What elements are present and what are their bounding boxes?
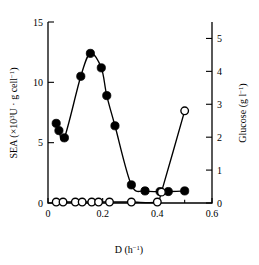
y-right-tick-label: 5: [217, 33, 222, 44]
y-left-tick-label: 5: [38, 137, 43, 148]
data-point-glucose: [154, 198, 162, 206]
data-point-glucose: [158, 188, 166, 196]
y-axis-left-title: SEA (×103U · g cell−1): [8, 68, 21, 159]
data-point-sea: [60, 134, 68, 142]
y-axis-left-ticks: [48, 22, 54, 203]
data-point-glucose: [106, 198, 114, 206]
data-point-glucose: [95, 198, 103, 206]
data-point-sea: [111, 122, 119, 130]
data-point-sea: [103, 92, 111, 100]
y-axis-right-title: Glucose (g l−1): [237, 83, 250, 142]
y-axis-right-tick-labels: 012345: [217, 33, 222, 209]
series-curves: [56, 53, 184, 203]
data-point-sea: [55, 127, 63, 135]
series-line-sea: [56, 53, 184, 191]
y-right-tick-label: 2: [217, 132, 222, 143]
y-left-tick-label: 10: [33, 77, 43, 88]
y-left-tick-label: 15: [33, 17, 43, 28]
x-tick-label: 0.4: [151, 208, 164, 219]
x-axis-title: D (h−1): [115, 244, 143, 257]
y-axis-left-tick-labels: 051015: [33, 17, 43, 209]
series-points: [52, 49, 189, 206]
data-point-glucose: [59, 198, 67, 206]
y-left-tick-label: 0: [38, 198, 43, 209]
x-tick-label: 0.2: [96, 208, 109, 219]
y-right-tick-label: 4: [217, 66, 222, 77]
y-axis-right-ticks: [206, 38, 212, 203]
y-right-tick-label: 3: [217, 99, 222, 110]
data-point-sea: [77, 72, 85, 80]
x-tick-label: 0: [46, 208, 51, 219]
data-point-glucose: [128, 198, 136, 206]
y-right-tick-label: 1: [217, 165, 222, 176]
x-axis-tick-labels: 00.20.40.6: [46, 208, 219, 219]
data-point-sea: [127, 181, 135, 189]
chart-figure: 00.20.40.6 051015 012345 D (h−1) SEA (×1…: [0, 0, 259, 265]
data-point-sea: [97, 64, 105, 72]
y-right-tick-label: 0: [217, 198, 222, 209]
chart-canvas: 00.20.40.6 051015 012345 D (h−1) SEA (×1…: [0, 0, 259, 265]
data-point-glucose: [78, 198, 86, 206]
data-point-sea: [141, 187, 149, 195]
data-point-sea: [86, 49, 94, 57]
data-point-sea: [181, 187, 189, 195]
data-point-glucose: [181, 107, 189, 115]
x-tick-label: 0.6: [206, 208, 219, 219]
